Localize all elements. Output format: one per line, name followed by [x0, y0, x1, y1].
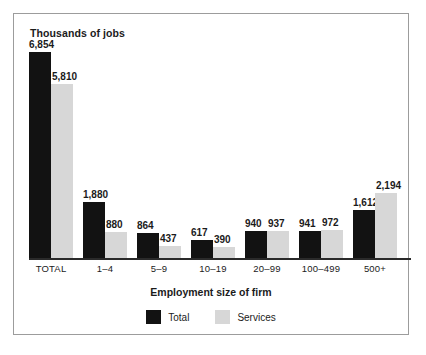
bar-total[interactable]	[137, 233, 159, 259]
bar-services[interactable]	[267, 231, 289, 259]
bar-value-label: 6,854	[29, 39, 54, 50]
bar-value-label: 390	[214, 234, 231, 245]
bar-group: 864437	[137, 52, 181, 259]
bar-value-label: 937	[268, 218, 285, 229]
bar-total[interactable]	[191, 240, 213, 259]
bar-total[interactable]	[83, 202, 105, 259]
bar-group: 6,8545,810	[29, 52, 73, 259]
bar-group: 1,6122,194	[353, 52, 397, 259]
bar-value-label: 941	[299, 218, 316, 229]
x-axis-tick-label: 500+	[339, 263, 411, 274]
bar-group: 940937	[245, 52, 289, 259]
bar-value-label: 437	[160, 233, 177, 244]
bar-group: 1,880880	[83, 52, 127, 259]
chart-title: Thousands of jobs	[30, 27, 125, 39]
bar-group: 941972	[299, 52, 343, 259]
x-axis-title: Employment size of firm	[14, 286, 408, 298]
x-axis-line	[29, 258, 411, 260]
bar-value-label: 880	[106, 219, 123, 230]
bar-value-label: 5,810	[52, 71, 77, 82]
bar-total[interactable]	[245, 231, 267, 259]
bar-value-label: 2,194	[376, 180, 401, 191]
bar-services[interactable]	[321, 230, 343, 259]
bar-value-label: 940	[245, 218, 262, 229]
bar-services[interactable]	[51, 84, 73, 259]
legend-swatch-services	[215, 310, 230, 324]
bar-value-label: 617	[191, 227, 208, 238]
legend-item-services: Services	[215, 310, 275, 324]
legend-label-total: Total	[168, 312, 189, 323]
bar-total[interactable]	[29, 52, 51, 259]
bar-value-label: 1,880	[83, 189, 108, 200]
bar-total[interactable]	[353, 210, 375, 259]
bar-value-label: 972	[322, 217, 339, 228]
bar-total[interactable]	[299, 231, 321, 259]
legend-item-total: Total	[146, 310, 189, 324]
chart-legend: Total Services	[14, 310, 408, 324]
legend-swatch-total	[146, 310, 161, 324]
legend-label-services: Services	[237, 312, 275, 323]
bar-services[interactable]	[375, 193, 397, 259]
plot-area: 6,8545,8101,8808808644376173909409379419…	[29, 52, 395, 259]
bar-services[interactable]	[105, 232, 127, 259]
chart-frame: Thousands of jobs 6,8545,8101,8808808644…	[13, 13, 409, 335]
bar-value-label: 864	[137, 220, 154, 231]
bar-group: 617390	[191, 52, 235, 259]
